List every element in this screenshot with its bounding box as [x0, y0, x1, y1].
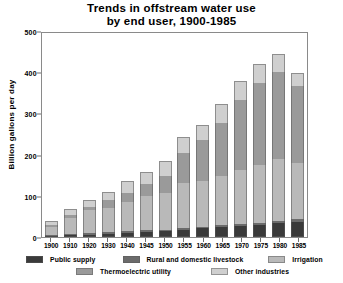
legend-item-irrigation: Irrigation	[268, 254, 322, 265]
bar-segment	[196, 125, 209, 141]
bar-column[interactable]	[177, 33, 190, 237]
bar-column[interactable]	[215, 33, 228, 237]
bar-column[interactable]	[45, 33, 58, 237]
stacked-bar-1940[interactable]	[121, 181, 134, 237]
legend-swatch-public-supply	[26, 256, 43, 263]
x-tick-label-1945: 1945	[139, 242, 152, 249]
bar-segment	[159, 161, 172, 176]
bar-segment	[83, 235, 96, 237]
bar-segment	[253, 165, 266, 223]
stacked-bar-1970[interactable]	[234, 81, 247, 237]
stacked-bar-1985[interactable]	[291, 73, 304, 237]
legend-item-rural-and-domestic-livestock: Rural and domestic livestock	[123, 254, 244, 265]
bar-segment	[196, 228, 209, 237]
stacked-bar-1955[interactable]	[177, 137, 190, 237]
x-tick-label-1900: 1900	[44, 242, 57, 249]
chart-title-line-2: by end user, 1900-1985	[0, 15, 343, 28]
bar-segment	[234, 100, 247, 170]
x-tick-label-1930: 1930	[101, 242, 114, 249]
stacked-bar-1965[interactable]	[215, 104, 228, 237]
stacked-bar-1900[interactable]	[45, 221, 58, 237]
chart-legend: Public supply Rural and domestic livesto…	[0, 254, 343, 282]
bar-segment	[234, 226, 247, 237]
bar-column[interactable]	[102, 33, 115, 237]
bar-segment	[102, 234, 115, 237]
bar-segment	[121, 202, 134, 231]
bar-segment	[196, 181, 209, 226]
bar-segment	[64, 218, 77, 234]
bar-segment	[45, 236, 58, 237]
legend-row-2: Thermoelectric utility Other industries	[0, 266, 343, 277]
bar-segment	[102, 208, 115, 233]
x-tick-label-1970: 1970	[235, 242, 248, 249]
bar-column[interactable]	[234, 33, 247, 237]
bar-segment	[291, 163, 304, 219]
stacked-bar-1975[interactable]	[253, 64, 266, 237]
bar-column[interactable]	[291, 33, 304, 237]
bar-segment	[291, 86, 304, 163]
bar-column[interactable]	[83, 33, 96, 237]
x-tick-label-1955: 1955	[177, 242, 190, 249]
bar-segment	[234, 170, 247, 224]
bar-segment	[177, 137, 190, 153]
stacked-bar-1960[interactable]	[196, 125, 209, 237]
legend-label-public-supply: Public supply	[50, 256, 96, 263]
bar-segment	[64, 235, 77, 237]
chart-title-line-1: Trends in offstream water use	[87, 2, 256, 14]
bar-segment	[140, 232, 153, 237]
bar-segment	[159, 176, 172, 192]
bar-column[interactable]	[196, 33, 209, 237]
x-tick-label-1940: 1940	[120, 242, 133, 249]
bar-segment	[159, 231, 172, 237]
bar-segment	[140, 172, 153, 184]
x-axis: 1900191019201930194019451950195519601965…	[41, 238, 308, 254]
x-tick-label-1960: 1960	[197, 242, 210, 249]
bar-segment	[253, 64, 266, 83]
bar-column[interactable]	[272, 33, 285, 237]
bar-segment	[196, 140, 209, 181]
stacked-bar-1945[interactable]	[140, 172, 153, 237]
bar-column[interactable]	[140, 33, 153, 237]
bar-segment	[272, 72, 285, 159]
y-tick-label-500: 500	[24, 29, 37, 36]
bar-segment	[215, 227, 228, 237]
x-tick-label-1950: 1950	[158, 242, 171, 249]
legend-label-irrigation: Irrigation	[292, 256, 322, 263]
bars-layer	[42, 33, 307, 237]
legend-item-public-supply: Public supply	[26, 254, 96, 265]
bar-column[interactable]	[64, 33, 77, 237]
legend-label-rural-and-domestic-livestock: Rural and domestic livestock	[147, 256, 244, 263]
y-tick-label-300: 300	[24, 111, 37, 118]
bar-segment	[121, 181, 134, 193]
bar-segment	[83, 200, 96, 207]
x-tick-label-1920: 1920	[82, 242, 95, 249]
x-tick-labels: 1900191019201930194019451950195519601965…	[41, 242, 308, 249]
legend-row-1: Public supply Rural and domestic livesto…	[0, 254, 343, 265]
legend-swatch-other-industries	[211, 268, 228, 275]
legend-label-thermoelectric-utility: Thermoelectric utility	[100, 268, 171, 275]
bar-segment	[291, 222, 304, 237]
y-axis-label: Billion gallons per day	[7, 50, 16, 200]
bar-segment	[234, 81, 247, 100]
y-tick-label-400: 400	[24, 70, 37, 77]
bar-column[interactable]	[253, 33, 266, 237]
y-axis: Billion gallons per day 0100200300400500	[0, 32, 41, 238]
bar-segment	[177, 230, 190, 237]
bar-column[interactable]	[121, 33, 134, 237]
bar-segment	[291, 73, 304, 86]
bar-segment	[215, 104, 228, 123]
x-tick-label-1910: 1910	[63, 242, 76, 249]
legend-item-other-industries: Other industries	[211, 266, 289, 277]
bar-segment	[253, 225, 266, 237]
x-tick-label-1985: 1985	[292, 242, 305, 249]
stacked-bar-1950[interactable]	[159, 161, 172, 237]
bar-column[interactable]	[159, 33, 172, 237]
bar-segment	[272, 54, 285, 73]
stacked-bar-1910[interactable]	[64, 209, 77, 237]
bar-segment	[272, 159, 285, 221]
legend-swatch-rural-and-domestic-livestock	[123, 256, 140, 263]
stacked-bar-1930[interactable]	[102, 192, 115, 237]
bar-segment	[121, 193, 134, 202]
stacked-bar-1920[interactable]	[83, 200, 96, 237]
stacked-bar-1980[interactable]	[272, 54, 285, 237]
